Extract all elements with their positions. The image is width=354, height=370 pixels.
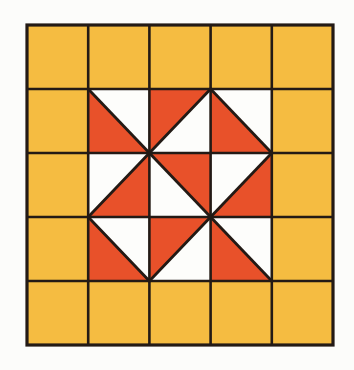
patch-square-r2-c0 [27,153,88,217]
patch-square-r0-c1 [88,25,149,89]
patch-square-r4-c0 [27,281,88,345]
patch-square-r4-c3 [211,281,272,345]
patch-square-r4-c2 [149,281,210,345]
patch-square-r1-c0 [27,89,88,153]
patch-square-r0-c2 [149,25,210,89]
quilt-block-figure [0,0,354,370]
quilt-block-canvas [0,0,354,370]
patch-square-r3-c4 [272,217,333,281]
patch-square-r0-c4 [272,25,333,89]
patch-square-r1-c4 [272,89,333,153]
patch-square-r0-c0 [27,25,88,89]
patch-square-r4-c4 [272,281,333,345]
patch-square-r2-c4 [272,153,333,217]
patch-square-r0-c3 [211,25,272,89]
patch-square-r4-c1 [88,281,149,345]
patch-square-r3-c0 [27,217,88,281]
